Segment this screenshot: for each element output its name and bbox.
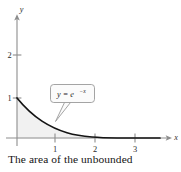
- callout-tail: [56, 103, 71, 122]
- plot-area: 1 2 3 1 2 y x y = e −x: [0, 0, 181, 172]
- callout-equation-base: y = e: [56, 90, 74, 99]
- figure-caption: The area of the unbounded: [8, 153, 181, 166]
- y-tick-label-1: 1: [7, 94, 11, 103]
- callout-equation-exponent: −x: [80, 88, 87, 94]
- x-axis-label: x: [173, 133, 178, 142]
- y-axis-label: y: [19, 5, 24, 14]
- exponential-decay-figure: 1 2 3 1 2 y x y = e −x The area of the u…: [0, 0, 181, 172]
- y-tick-label-2: 2: [7, 51, 11, 60]
